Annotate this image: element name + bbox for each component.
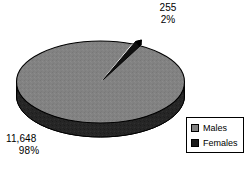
- square-swatch-icon: [191, 139, 199, 147]
- chart-legend: Males Females: [186, 117, 244, 153]
- pie-chart-figure: 255 2% 11,648 98% Males Females: [0, 0, 249, 170]
- callout-females: 255 2%: [148, 2, 188, 26]
- pie-slice-males: [17, 41, 185, 123]
- callout-males-percent: 98%: [4, 145, 54, 157]
- callout-females-percent: 2%: [148, 14, 188, 26]
- legend-label-males: Males: [203, 123, 227, 133]
- callout-males-value: 11,648: [4, 133, 64, 145]
- legend-item-females: Females: [191, 136, 240, 150]
- legend-item-males: Males: [191, 121, 240, 135]
- callout-females-value: 255: [148, 2, 188, 14]
- callout-males: 11,648 98%: [4, 133, 64, 157]
- square-swatch-icon: [191, 124, 199, 132]
- legend-label-females: Females: [203, 138, 238, 148]
